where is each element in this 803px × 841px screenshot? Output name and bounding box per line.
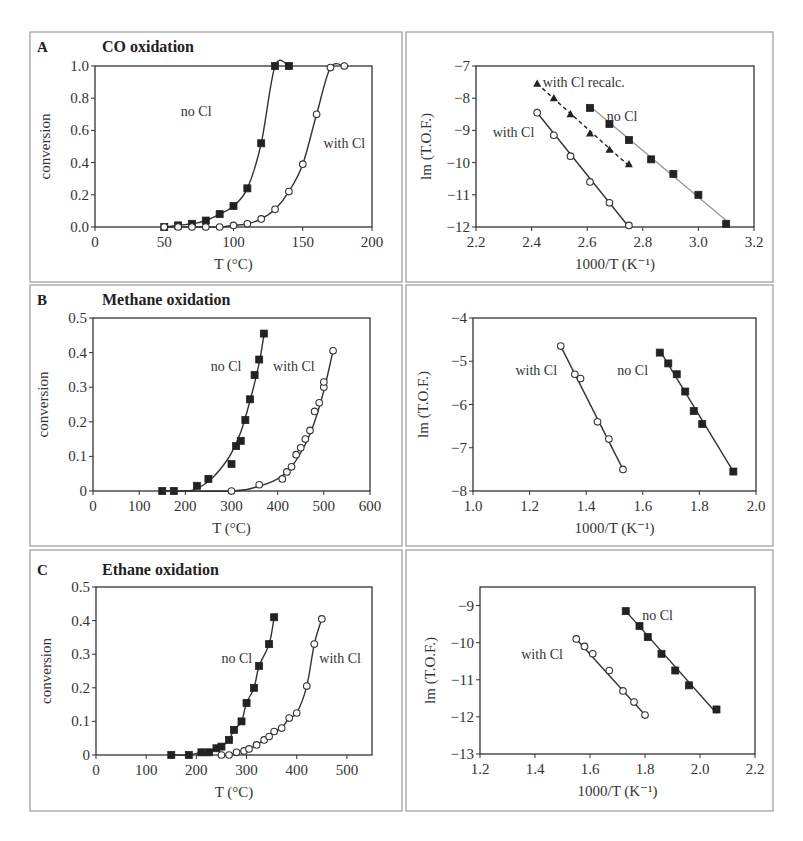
series-no-cl: no Cl [168, 614, 278, 759]
x-tick-label: 2.4 [522, 234, 541, 250]
data-point-square [185, 752, 192, 759]
y-axis: 0.00.20.40.60.81.0conversion [37, 58, 95, 235]
y-tick-label: −13 [451, 746, 474, 762]
series-label: no Cl [617, 363, 648, 378]
data-point-square [723, 220, 730, 227]
data-point-square [695, 191, 702, 198]
series-line [537, 84, 629, 166]
x-axis: 0100200300400500T (°C) [92, 755, 358, 801]
data-point-square [658, 650, 665, 657]
x-tick-label: 1.0 [464, 498, 483, 514]
series-no-cl: no Cl [617, 349, 737, 475]
y-axis: 00.10.20.30.40.5conversion [35, 310, 93, 499]
data-point-circle [534, 109, 541, 116]
series-label: with Cl recalc. [543, 75, 625, 90]
x-tick-label: 3.0 [689, 234, 708, 250]
y-tick-label: 0.2 [68, 414, 87, 430]
data-point-circle [216, 224, 223, 231]
x-axis-label: T (°C) [214, 256, 253, 273]
data-point-circle [175, 224, 182, 231]
y-tick-label: 0.6 [70, 122, 89, 138]
data-point-circle [573, 636, 580, 643]
data-point-circle [642, 712, 649, 719]
x-tick-label: 2.0 [691, 761, 710, 777]
x-axis: 2.22.42.62.83.03.21000/T (K⁻¹) [467, 227, 764, 273]
y-axis-label: conversion [35, 371, 51, 437]
x-axis-label: 1000/T (K⁻¹) [577, 783, 657, 800]
y-axis: 00.10.20.30.40.5conversion [38, 579, 96, 763]
x-axis: 050100150200T (°C) [91, 227, 383, 273]
data-point-square [168, 752, 175, 759]
x-tick-label: 200 [174, 498, 197, 514]
x-tick-label: 1.4 [526, 761, 545, 777]
data-point-square [237, 437, 244, 444]
y-axis: −8−7−6−5−4lm (T.O.F.) [415, 310, 473, 499]
data-point-circle [577, 375, 584, 382]
y-axis-label: lm (T.O.F.) [422, 637, 439, 704]
series-line [164, 60, 289, 227]
y-tick-label: 0.3 [71, 646, 90, 662]
x-tick-label: 1.4 [577, 498, 596, 514]
series-no-cl: no Cl [161, 60, 293, 230]
y-tick-label: 0.2 [71, 680, 90, 696]
data-point-circle [594, 419, 601, 426]
data-point-square [230, 203, 237, 210]
y-tick-label: 0.3 [68, 379, 87, 395]
data-point-circle [286, 188, 293, 195]
y-tick-label: −8 [454, 90, 470, 106]
data-point-square [198, 749, 205, 756]
y-tick-label: 0.2 [70, 187, 89, 203]
data-point-triangle [567, 110, 575, 117]
data-point-circle [620, 688, 627, 695]
series-label: no Cl [181, 104, 212, 119]
data-point-circle [258, 216, 265, 223]
series-line [164, 64, 344, 227]
y-tick-label: 0.4 [68, 345, 87, 361]
data-point-square [231, 726, 238, 733]
data-point-triangle [586, 129, 594, 136]
panel-title: CO oxidation [102, 38, 194, 55]
data-point-square [672, 667, 679, 674]
data-point-square [644, 634, 651, 641]
x-tick-label: 400 [266, 498, 289, 514]
data-point-square [625, 137, 632, 144]
data-point-circle [297, 444, 304, 451]
data-point-circle [189, 224, 196, 231]
data-point-circle [587, 179, 594, 186]
plot-area [480, 587, 755, 754]
data-point-circle [307, 427, 314, 434]
panel-b-left: BMethane oxidation0100200300400500600T (… [30, 285, 402, 546]
x-tick-label: 100 [128, 498, 151, 514]
data-point-square [243, 699, 250, 706]
data-point-square [193, 482, 200, 489]
y-tick-label: −11 [451, 672, 474, 688]
series-no-cl: no Cl [159, 330, 268, 494]
data-point-circle [316, 399, 323, 406]
data-point-circle [271, 728, 278, 735]
data-point-square [238, 718, 245, 725]
data-point-circle [228, 488, 235, 495]
panel-c-left: CEthane oxidation0100200300400500T (°C)0… [30, 550, 402, 811]
x-tick-label: 300 [220, 498, 243, 514]
panel-a-right: 2.22.42.62.83.03.21000/T (K⁻¹)−12−11−10−… [406, 32, 773, 282]
x-tick-label: 200 [361, 234, 384, 250]
data-point-circle [551, 132, 558, 139]
data-point-circle [203, 224, 210, 231]
series-with-cl: with Cl [521, 636, 648, 719]
data-point-circle [233, 749, 240, 756]
data-point-square [266, 641, 273, 648]
x-tick-label: 2.2 [467, 234, 486, 250]
y-tick-label: −7 [454, 58, 470, 74]
data-point-circle [327, 64, 334, 71]
x-tick-label: 200 [185, 762, 208, 778]
series-label: no Cl [221, 651, 252, 666]
data-point-square [256, 662, 263, 669]
panel-letter: B [37, 292, 47, 308]
data-point-circle [589, 651, 596, 658]
y-tick-label: 0.5 [71, 579, 90, 595]
x-tick-label: 2.0 [747, 498, 766, 514]
x-axis-label: T (°C) [215, 784, 254, 801]
y-tick-label: 0.1 [68, 448, 87, 464]
y-tick-label: −6 [451, 397, 467, 413]
data-point-circle [330, 348, 337, 355]
